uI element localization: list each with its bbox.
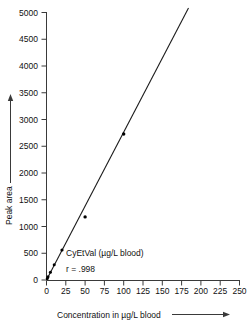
data-point (47, 275, 50, 278)
x-tick-label: 175 (175, 286, 189, 296)
x-tick-label: 25 (61, 286, 71, 296)
x-axis-tick-labels: 0 25 50 75 100 125 150 175 200 225 250 (44, 286, 247, 296)
y-tick-label: 5000 (19, 8, 38, 18)
y-tick-label: 3500 (19, 88, 38, 98)
x-tick-label: 200 (194, 286, 208, 296)
data-point (53, 263, 56, 266)
x-tick-label: 100 (117, 286, 131, 296)
x-tick-label: 50 (80, 286, 90, 296)
regression-fit-line (47, 8, 189, 280)
x-axis-ticks (47, 281, 240, 286)
x-tick-label: 250 (232, 286, 246, 296)
arrow-up-icon (8, 94, 13, 183)
arrow-right-icon (172, 312, 230, 317)
y-tick-label: 2000 (19, 168, 38, 178)
y-tick-label: 2500 (19, 141, 38, 151)
y-tick-label: 1000 (19, 222, 38, 232)
y-axis-title: Peak area (4, 186, 14, 225)
y-axis-tick-labels: 5000 4500 4000 3500 3000 2500 2000 1500 … (19, 8, 38, 286)
y-tick-label: 500 (24, 248, 38, 258)
x-tick-label: 0 (44, 286, 49, 296)
x-axis-title: Concentration in µg/L blood (57, 310, 161, 320)
y-tick-label: 4500 (19, 34, 38, 44)
y-tick-label: 1500 (19, 195, 38, 205)
correlation-annotation: r = .998 (66, 264, 95, 274)
y-tick-label: 4000 (19, 61, 38, 71)
analyte-annotation: CyEtVal (µg/L blood) (66, 248, 144, 258)
chart-svg: 5000 4500 4000 3500 3000 2500 2000 1500 … (0, 0, 248, 330)
x-tick-label: 150 (155, 286, 169, 296)
data-point (60, 248, 63, 251)
data-point (122, 132, 125, 135)
x-tick-label: 125 (136, 286, 150, 296)
y-tick-label: 3000 (19, 115, 38, 125)
y-tick-label: 0 (33, 275, 38, 285)
y-axis-ticks (42, 13, 47, 281)
data-point (49, 271, 52, 274)
x-tick-label: 225 (213, 286, 227, 296)
x-tick-label: 75 (100, 286, 110, 296)
data-point (83, 215, 86, 218)
calibration-chart-figure: 5000 4500 4000 3500 3000 2500 2000 1500 … (0, 0, 248, 330)
